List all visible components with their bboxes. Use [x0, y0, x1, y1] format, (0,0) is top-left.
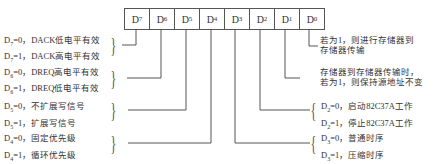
connector-d5	[128, 29, 186, 110]
label-d3: D3=0，普通时序 D3=1，压缩时序	[321, 132, 384, 164]
brace-d4: }	[110, 132, 116, 154]
connector-d6	[127, 29, 161, 78]
brace-d5: }	[110, 99, 116, 121]
label-d7: D7=0，DACK低电平有效 D7=1，DACK高电平有效	[4, 34, 100, 65]
connector-d4	[128, 29, 211, 143]
label-d5: D5=0，不扩展写信号 D5=1，扩展写信号	[4, 100, 85, 133]
brace-d2: {	[310, 99, 316, 121]
connector-d0	[309, 29, 318, 46]
connector-d1	[285, 29, 300, 78]
connector-d3	[235, 29, 310, 143]
brace-d3: {	[310, 132, 316, 154]
label-d0: 若为1，则进行存储器到 存储器传输	[320, 35, 414, 55]
label-d6: D6=0，DREQ高电平有效 D6=1，DREQ低电平有效	[4, 66, 99, 97]
label-d1: 存储器到存储器传输时， 若为1，则保持源地址不变	[320, 67, 423, 87]
brace-d7: }	[110, 34, 116, 56]
label-d4: D4=0，固定优先级 D4=1，循环优先级	[4, 132, 76, 164]
connector-d7	[122, 29, 136, 45]
label-d2: D2=0，启动82C37A工作 D2=1，停止82C37A工作	[321, 100, 413, 133]
brace-d6: }	[110, 67, 116, 89]
